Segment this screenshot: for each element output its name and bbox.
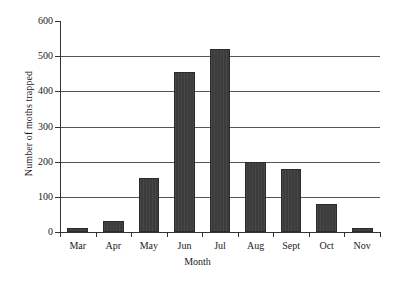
x-axis-tick — [238, 232, 239, 237]
y-axis-tick-label: 200 — [38, 157, 53, 167]
y-axis-tick — [55, 56, 60, 57]
x-axis-tick-label: Jul — [214, 241, 226, 251]
bar — [316, 204, 337, 232]
bar — [139, 178, 160, 233]
x-axis-tick-label: Sept — [282, 241, 300, 251]
x-axis-tick-label: Jun — [177, 241, 191, 251]
y-axis-tick — [55, 162, 60, 163]
x-axis-tick-label: May — [140, 241, 158, 251]
bar — [174, 72, 195, 232]
bar — [245, 162, 266, 232]
bar-chart: Number of moths trapped 0100200300400500… — [0, 0, 395, 285]
y-axis-tick — [55, 21, 60, 22]
bar — [103, 221, 124, 232]
x-axis-tick-label: Apr — [106, 241, 122, 251]
y-axis-tick-label: 400 — [38, 86, 53, 96]
bar — [67, 228, 88, 232]
bar — [210, 49, 231, 232]
x-axis-tick — [131, 232, 132, 237]
plot-area: 0100200300400500600 MarAprMayJunJulAugSe… — [60, 21, 380, 232]
y-axis-tick — [55, 197, 60, 198]
y-axis-tick-label: 600 — [38, 16, 53, 26]
x-axis-tick — [344, 232, 345, 237]
x-axis-tick — [167, 232, 168, 237]
x-axis-tick — [202, 232, 203, 237]
x-axis-title: Month — [0, 256, 395, 267]
x-axis-tick — [273, 232, 274, 237]
x-axis-tick-label: Nov — [354, 241, 371, 251]
x-axis-tick — [309, 232, 310, 237]
y-axis-tick-label: 500 — [38, 51, 53, 61]
y-axis-title: Number of moths trapped — [23, 34, 34, 214]
x-axis-tick — [96, 232, 97, 237]
bar — [352, 228, 373, 232]
y-axis-tick — [55, 91, 60, 92]
x-axis-tick — [60, 232, 61, 237]
y-axis-tick — [55, 127, 60, 128]
x-axis-line — [60, 232, 380, 233]
x-axis-tick-label: Oct — [319, 241, 333, 251]
y-axis-tick-label: 0 — [48, 227, 53, 237]
x-axis-tick — [380, 232, 381, 237]
x-axis-tick-label: Aug — [247, 241, 264, 251]
bar — [281, 169, 302, 232]
y-axis-tick-label: 300 — [38, 122, 53, 132]
x-axis-tick-label: Mar — [69, 241, 86, 251]
y-axis-tick-label: 100 — [38, 192, 53, 202]
